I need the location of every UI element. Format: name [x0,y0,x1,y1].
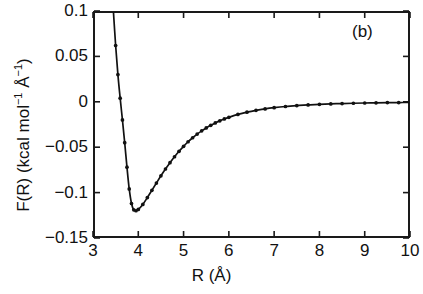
x-tick-label: 9 [345,241,385,260]
data-point [150,188,154,192]
data-point [272,106,276,110]
y-tick-label: −0.1 [54,184,88,201]
data-point [236,113,240,117]
x-tick-label: 3 [73,241,113,260]
x-tick-label: 7 [254,241,294,260]
figure-panel-b: 0.10.050−0.05−0.1−0.15 345678910 R (Å) F… [0,0,423,294]
data-point [127,187,131,191]
data-point-markers [114,44,412,213]
data-point [386,101,390,105]
data-point [204,126,208,130]
data-point [130,202,134,206]
data-point [263,107,267,111]
data-point [363,101,367,105]
data-point [168,161,172,165]
data-point [195,132,199,136]
x-tick-label: 4 [118,241,158,260]
data-point [159,174,163,178]
data-point [145,196,149,200]
data-point [284,105,288,109]
data-point [218,119,222,123]
data-point [177,149,181,153]
data-point [222,117,226,121]
data-point [114,44,118,48]
data-point [141,203,145,207]
superscript: −1 [12,93,24,106]
data-point [213,121,217,125]
data-point [155,181,159,185]
data-point [254,108,258,112]
x-tick-label: 8 [299,241,339,260]
data-point [306,103,310,107]
data-point [397,101,401,105]
data-point [374,101,378,105]
data-point [173,155,177,159]
x-tick-label: 5 [164,241,204,260]
data-point [318,102,322,106]
data-point [182,144,186,148]
x-tick-label: 10 [390,241,423,260]
y-tick-label: 0.05 [55,47,88,64]
data-point [125,165,129,169]
y-tick-label: 0.1 [64,2,88,19]
data-point [116,73,120,77]
data-point [118,96,122,100]
data-point [340,102,344,106]
data-point [329,102,333,106]
data-point [121,118,125,122]
superscript: −1 [12,64,24,77]
y-axis-title: F(R) (kcal mol−1 Å−1) [14,15,34,255]
data-point [245,110,249,114]
data-point [227,115,231,119]
data-point [352,101,356,105]
data-point [209,123,213,127]
x-axis-title: R (Å) [0,266,423,286]
data-point [136,208,140,212]
y-tick-label: 0 [79,93,88,110]
data-point [164,167,168,171]
data-point [186,140,190,144]
data-point [408,101,412,105]
data-point [191,136,195,140]
y-tick-label: −0.05 [45,138,88,155]
x-tick-marks [93,12,410,237]
x-tick-label: 6 [209,241,249,260]
data-point [123,141,127,145]
data-point [295,104,299,108]
data-point [200,129,204,133]
panel-label: (b) [352,22,373,42]
